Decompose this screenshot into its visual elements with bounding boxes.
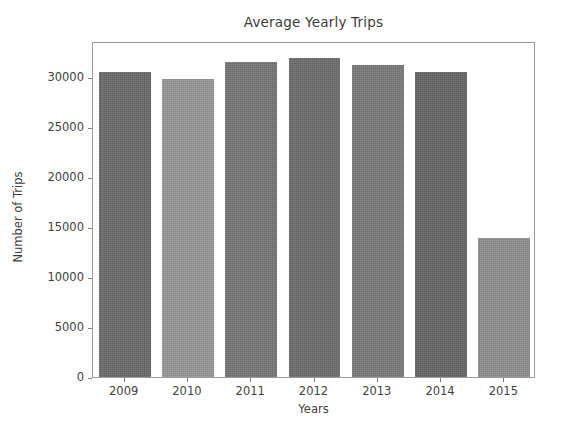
y-tick-label: 5000: [0, 320, 84, 334]
x-tick-mark: [377, 378, 378, 382]
bars-layer: [93, 43, 534, 377]
bar-2012: [289, 58, 341, 377]
y-tick-label: 25000: [0, 120, 84, 134]
bar-2009: [99, 72, 151, 377]
x-tick-mark: [314, 378, 315, 382]
x-tick-mark: [503, 378, 504, 382]
y-tick-label: 10000: [0, 270, 84, 284]
y-tick-label: 30000: [0, 70, 84, 84]
x-tick-label: 2015: [463, 384, 543, 398]
bar-2010: [162, 79, 214, 377]
x-tick-mark: [187, 378, 188, 382]
x-tick-mark: [250, 378, 251, 382]
y-tick-mark: [88, 378, 92, 379]
plot-area: [92, 42, 535, 378]
bar-2014: [415, 72, 467, 377]
y-tick-label: 15000: [0, 220, 84, 234]
y-tick-label: 20000: [0, 170, 84, 184]
x-axis-label: Years: [92, 402, 535, 416]
bar-2015: [478, 238, 530, 377]
chart-title: Average Yearly Trips: [92, 14, 535, 30]
bar-2011: [225, 62, 277, 377]
bar-2013: [352, 65, 404, 377]
chart-figure: Average Yearly Trips Number of Trips 050…: [0, 0, 564, 438]
x-tick-mark: [124, 378, 125, 382]
x-tick-mark: [440, 378, 441, 382]
y-tick-label: 0: [0, 370, 84, 384]
